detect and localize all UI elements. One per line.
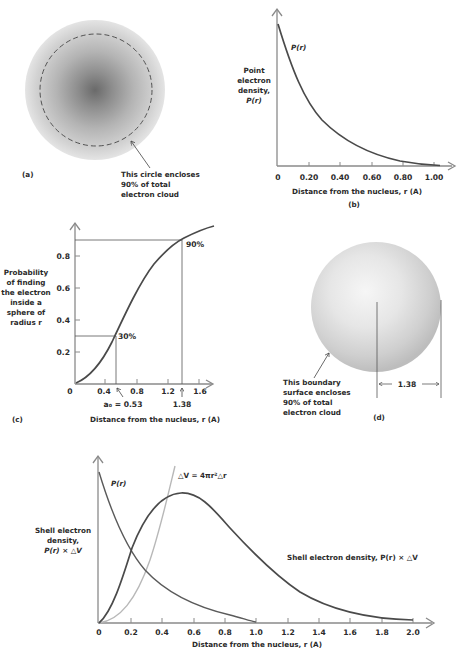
electron-cloud <box>25 20 165 160</box>
x-tick-label: 1.6 <box>343 628 356 637</box>
panel-d-annotation-line3: 90% of total <box>283 398 332 407</box>
panel-b-point-density-chart: P(r) Point electron density, P(r) 0 0.20… <box>237 9 455 209</box>
x-tick-label: 0.40 <box>331 173 350 182</box>
x-tick-label: 0 <box>275 173 280 182</box>
boundary-arrow-icon <box>314 353 329 378</box>
y-axis-label-line6: radius r <box>10 318 42 327</box>
30-percent-guide <box>75 336 116 384</box>
30-percent-label: 30% <box>118 332 137 341</box>
panel-d-label: (d) <box>373 413 385 422</box>
y-axis-label-line5: sphere of <box>7 308 46 317</box>
x-tick-label: 0.4 <box>97 387 110 396</box>
x-tick-label: 0.80 <box>394 173 413 182</box>
panel-a-annotation-line3: electron cloud <box>121 190 179 199</box>
panel-a-annotation-line1: This circle encloses <box>121 170 200 179</box>
a0-label: a₀ = 0.53 <box>104 400 143 409</box>
panel-d-boundary-sphere: 1.38 This boundary surface encloses 90% … <box>283 242 441 422</box>
y-axis-label-line1: Point <box>243 66 265 75</box>
y-axis-label-line1: Shell electron <box>35 526 91 535</box>
x-tick-label: 0 <box>67 387 72 396</box>
x-tick-label: 1.2 <box>161 387 174 396</box>
panel-a-annotation-line2: 90% of total <box>121 180 170 189</box>
y-axis-label-line4: inside a <box>10 298 42 307</box>
y-axis-label-line3: density, <box>238 86 270 95</box>
panel-a-label: (a) <box>22 170 33 179</box>
x-tick-label: 2.0 <box>406 628 419 637</box>
radius-label: 1.38 <box>398 380 417 389</box>
y-axis-label-line4: P(r) <box>246 96 261 105</box>
panel-e-shell-density-chart: P(r) △V = 4πr²△r Shell electron density,… <box>35 456 434 648</box>
pr-curve-label: P(r) <box>291 43 306 52</box>
x-tick-label: 0.4 <box>155 628 168 637</box>
panel-c-cumulative-probability-chart: 30% 90% 0.2 0.4 0.6 0.8 0 0.4 0.8 1.2 1.… <box>1 223 220 424</box>
x-tick-label: 0.60 <box>363 173 382 182</box>
x-tick-label: 0 <box>96 628 101 637</box>
panel-a-electron-cloud: (a) This circle encloses 90% of total el… <box>22 20 200 199</box>
y-axis-label-line2: of finding <box>7 278 46 287</box>
y-axis-label-line3: P(r) × △V <box>44 546 83 555</box>
panel-d-annotation-line4: electron cloud <box>283 408 341 417</box>
x-tick-label: 1.2 <box>281 628 294 637</box>
cumulative-curve <box>76 226 214 383</box>
panel-b-label: (b) <box>348 200 360 209</box>
y-tick-label: 0.6 <box>57 284 70 293</box>
x-axis-label: Distance from the nucleus, r (A) <box>292 187 422 196</box>
x-tick-label: 1.6 <box>193 387 206 396</box>
shell-density-curve-label: Shell electron density, P(r) × △V <box>287 553 418 562</box>
r90-label: 1.38 <box>173 400 192 409</box>
x-tick-label: 1.8 <box>375 628 388 637</box>
x-tick-label: 1.00 <box>425 173 444 182</box>
y-axis-label-line3: the electron <box>1 288 50 297</box>
pr-curve <box>99 472 256 622</box>
y-tick-label: 0.4 <box>57 316 70 325</box>
y-axis-label-line2: electron <box>237 76 271 85</box>
figure-canvas: (a) This circle encloses 90% of total el… <box>0 0 457 648</box>
panel-d-annotation-line1: This boundary <box>283 378 341 387</box>
y-tick-label: 0.2 <box>57 348 70 357</box>
x-tick-label: 0.6 <box>187 628 200 637</box>
x-tick-label: 0.8 <box>130 387 143 396</box>
delta-v-curve <box>99 466 175 623</box>
x-axis-label: Distance from the nucleus, r (A) <box>90 415 220 424</box>
y-axis-label-line2: density, <box>47 536 79 545</box>
pr-curve-label: P(r) <box>111 479 126 488</box>
y-tick-label: 0.8 <box>57 252 70 261</box>
panel-d-annotation-line2: surface encloses <box>283 388 351 397</box>
y-axis-label-line1: Probability <box>4 268 49 277</box>
arrow-icon <box>131 141 150 168</box>
x-tick-label: 0.20 <box>300 173 319 182</box>
x-tick-label: 0.2 <box>124 628 137 637</box>
x-tick-label: 1.4 <box>312 628 325 637</box>
90-percent-guide <box>75 240 182 384</box>
x-axis-label: Distance from the nucleus, r (A) <box>192 640 322 648</box>
delta-v-curve-label: △V = 4πr²△r <box>178 471 227 480</box>
boundary-sphere <box>311 242 441 372</box>
x-tick-label: 0.8 <box>218 628 231 637</box>
x-tick-label: 1.0 <box>249 628 262 637</box>
90-percent-label: 90% <box>186 240 205 249</box>
a0-arrow-icon <box>117 388 123 397</box>
panel-c-label: (c) <box>12 415 23 424</box>
